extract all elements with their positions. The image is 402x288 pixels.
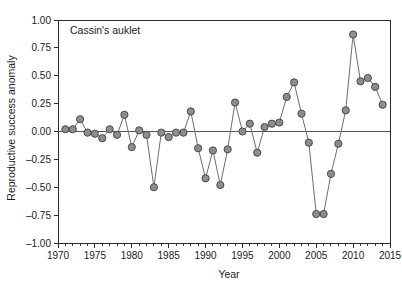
y-tick-label: 0.25	[32, 98, 52, 109]
data-point-marker: 1993: -0.16	[224, 146, 231, 153]
data-point-marker: 1988: 0.18	[187, 108, 194, 115]
y-tick-label: 0.75	[32, 42, 52, 53]
x-tick-label: 2005	[305, 250, 328, 261]
data-point-marker: 1975: -0.02	[91, 130, 98, 137]
data-point-marker: 1980: -0.14	[128, 144, 135, 151]
y-axis-title: Reproductive success anomaly	[5, 55, 17, 201]
x-axis-title: Year	[218, 268, 240, 280]
data-point-marker: 1971: 0.02	[62, 126, 69, 133]
y-tick-label: 0.00	[32, 126, 52, 137]
data-point-marker: 1998: 0.04	[261, 123, 268, 130]
data-point-marker: 1987: -0.01	[180, 129, 187, 136]
data-point-marker: 1984: -0.01	[158, 129, 165, 136]
y-tick-label: –0.75	[26, 210, 51, 221]
data-point-marker: 1973: 0.11	[77, 116, 84, 123]
data-point-marker: 1989: -0.15	[195, 145, 202, 152]
data-point-marker: 2008: -0.11	[335, 140, 342, 147]
data-point-marker: 2004: -0.1	[305, 139, 312, 146]
data-point-marker: 2014: 0.24	[379, 101, 386, 108]
y-tick-label: –0.50	[26, 182, 51, 193]
data-point-marker: 1972: 0.02	[69, 126, 76, 133]
x-tick-label: 2000	[268, 250, 291, 261]
x-tick-label: 2010	[342, 250, 365, 261]
x-tick-label: 1985	[158, 250, 181, 261]
x-tick-label: 1995	[231, 250, 254, 261]
data-point-marker: 2007: -0.38	[327, 170, 334, 177]
data-point-marker: 2002: 0.44	[290, 79, 297, 86]
data-point-marker: 1974: -0.01	[84, 129, 91, 136]
data-point-marker: 1981: 0.01	[136, 127, 143, 134]
data-point-marker: 1979: 0.15	[121, 111, 128, 118]
data-point-marker: 1996: 0.07	[246, 120, 253, 127]
x-tick-label: 2015	[379, 250, 402, 261]
data-point-marker: 1976: -0.06	[99, 135, 106, 142]
data-point-marker: 1982: -0.03	[143, 131, 150, 138]
line-chart-svg: –1.00–0.75–0.50–0.250.000.250.500.751.00…	[0, 0, 402, 288]
x-tick-label: 1980	[121, 250, 144, 261]
data-point-marker: 1991: -0.17	[209, 147, 216, 154]
y-tick-label: –0.25	[26, 154, 51, 165]
data-point-marker: 2000: 0.08	[276, 119, 283, 126]
panel-title: Cassin's auklet	[70, 24, 140, 36]
data-point-marker: 1997: -0.19	[254, 149, 261, 156]
data-point-marker: 2003: 0.16	[298, 110, 305, 117]
data-point-marker: 2011: 0.45	[357, 78, 364, 85]
x-tick-label: 1970	[47, 250, 70, 261]
data-point-marker: 2005: -0.74	[313, 210, 320, 217]
data-point-marker: 2001: 0.31	[283, 93, 290, 100]
data-point-marker: 1985: -0.05	[165, 133, 172, 140]
data-point-marker: 1995: 0	[239, 128, 246, 135]
data-point-marker: 2009: 0.19	[342, 107, 349, 114]
x-tick-label: 1975	[84, 250, 107, 261]
data-point-marker: 1992: -0.48	[217, 181, 224, 188]
data-point-marker: 1990: -0.42	[202, 175, 209, 182]
y-tick-label: 1.00	[32, 15, 52, 26]
data-point-marker: 1983: -0.5	[150, 184, 157, 191]
y-tick-label: –1.00	[26, 238, 51, 249]
data-point-marker: 2010: 0.87	[350, 31, 357, 38]
data-point-marker: 1978: -0.03	[113, 131, 120, 138]
x-tick-label: 1990	[194, 250, 217, 261]
data-point-marker: 1999: 0.07	[268, 120, 275, 127]
data-point-marker: 1977: 0.02	[106, 126, 113, 133]
data-point-marker: 2013: 0.4	[372, 83, 379, 90]
chart-figure: –1.00–0.75–0.50–0.250.000.250.500.751.00…	[0, 0, 402, 288]
data-point-marker: 1986: -0.01	[172, 129, 179, 136]
data-point-marker: 2006: -0.74	[320, 210, 327, 217]
data-point-marker: 1994: 0.26	[231, 99, 238, 106]
data-point-marker: 2012: 0.48	[364, 74, 371, 81]
y-tick-label: 0.50	[32, 70, 52, 81]
